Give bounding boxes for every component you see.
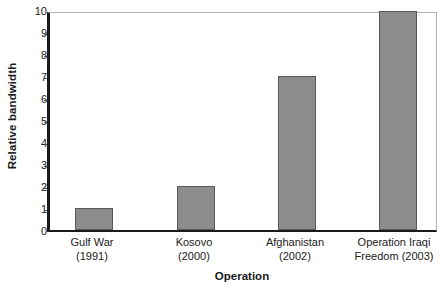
x-tick-label-kosovo: Kosovo (2000) [144,236,244,263]
x-axis-title: Operation [47,270,437,282]
x-tick-label-iraqi-freedom: Operation Iraqi Freedom (2003) [340,236,448,263]
bar-afghanistan [278,76,316,230]
x-tick-label-gulf-war: Gulf War (1991) [42,236,142,263]
bar-iraqi-freedom [379,11,417,230]
x-tick-label-line2: (1991) [42,250,142,264]
x-tick-label-line1: Afghanistan [266,236,324,248]
y-axis-title: Relative bandwidth [3,0,21,232]
plot-inner [50,13,436,230]
bar-gulf-war [75,208,113,230]
x-tick-label-afghanistan: Afghanistan (2002) [245,236,345,263]
bar-kosovo [177,186,215,230]
x-tick-label-line2: Freedom (2003) [340,250,448,264]
x-tick-label-line1: Gulf War [71,236,114,248]
x-tick-label-line2: (2000) [144,250,244,264]
x-tick-label-line1: Operation Iraqi [358,236,431,248]
y-tick-label: 10 [21,6,47,17]
x-tick-label-line1: Kosovo [176,236,213,248]
bar-chart-figure: Relative bandwidth 10 9 8 7 6 5 4 3 2 1 … [0,0,448,289]
x-tick-label-line2: (2002) [245,250,345,264]
plot-area [47,12,437,232]
